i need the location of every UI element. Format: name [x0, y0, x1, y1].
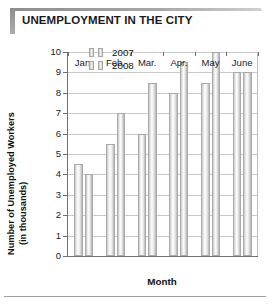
x-tick-mark	[226, 52, 227, 56]
x-axis-title: Month	[67, 276, 257, 287]
bar-2008-feb	[117, 113, 126, 256]
bar-2008-june	[243, 72, 252, 256]
gridline	[68, 215, 258, 216]
x-tick-mark	[195, 52, 196, 56]
gridline	[68, 236, 258, 237]
x-tick-label: June	[226, 57, 258, 68]
chart-legend: 2007 2008	[88, 46, 150, 72]
chart-figure: UNEMPLOYMENT IN THE CITY Number of Unemp…	[0, 0, 272, 304]
legend-item-2007: 2007	[88, 46, 150, 59]
y-tick-label: 5	[39, 149, 61, 159]
banner-top-bar	[10, 8, 262, 11]
x-tick-label: Apr.	[163, 57, 195, 68]
y-tick-mark	[63, 215, 67, 216]
y-tick-label: 2	[39, 210, 61, 220]
y-axis-title-line1: Number of Unemployed Workers	[6, 112, 17, 255]
bar-2007-jan	[74, 164, 83, 256]
y-tick-mark	[63, 113, 67, 114]
legend-swatch-2008	[88, 61, 108, 70]
page-bottom-rule	[4, 296, 266, 297]
y-tick-label: 8	[39, 88, 61, 98]
y-tick-mark	[63, 93, 67, 94]
y-axis-title: Number of Unemployed Workers (in thousan…	[0, 40, 32, 260]
plot-area: Jan.Feb.Mar.Apr.MayJune	[67, 52, 258, 257]
bar-2007-apr	[169, 93, 178, 256]
legend-swatch-bar-icon	[98, 48, 103, 57]
gridline	[68, 154, 258, 155]
y-tick-label: 7	[39, 108, 61, 118]
gridline	[68, 174, 258, 175]
x-tick-label: May	[195, 57, 227, 68]
page-title: UNEMPLOYMENT IN THE CITY	[22, 14, 192, 26]
y-axis-title-line2: (in thousands)	[18, 182, 29, 245]
y-tick-label: 9	[39, 67, 61, 77]
y-tick-mark	[63, 154, 67, 155]
gridline	[68, 113, 258, 114]
y-tick-label: 3	[39, 190, 61, 200]
gridline	[68, 93, 258, 94]
x-tick-mark	[68, 52, 69, 56]
bar-2007-feb	[106, 144, 115, 256]
y-tick-label: 10	[39, 47, 61, 57]
legend-swatch-bar-icon	[89, 61, 94, 70]
legend-swatch-bar-icon	[89, 48, 94, 57]
legend-swatch-bar-icon	[98, 61, 103, 70]
y-tick-mark	[63, 174, 67, 175]
bar-2008-apr	[180, 62, 189, 256]
y-tick-label: 4	[39, 169, 61, 179]
y-tick-label: 1	[39, 231, 61, 241]
y-tick-label: 0	[39, 251, 61, 261]
y-tick-mark	[63, 236, 67, 237]
legend-swatch-2007	[88, 48, 108, 57]
bar-2007-mar	[138, 134, 147, 256]
gridline	[68, 134, 258, 135]
y-tick-mark	[63, 134, 67, 135]
chart-title-banner: UNEMPLOYMENT IN THE CITY	[10, 8, 262, 34]
y-tick-mark	[63, 195, 67, 196]
banner-left-bar	[10, 8, 15, 34]
bar-2008-mar	[148, 83, 157, 256]
x-tick-mark	[163, 52, 164, 56]
y-tick-mark	[63, 72, 67, 73]
x-tick-mark	[258, 52, 259, 56]
y-tick-mark	[63, 256, 67, 257]
legend-label-2007: 2007	[112, 48, 134, 58]
gridline	[68, 72, 258, 73]
bar-2007-june	[233, 72, 242, 256]
gridline	[68, 195, 258, 196]
legend-item-2008: 2008	[88, 59, 150, 72]
y-tick-label: 6	[39, 129, 61, 139]
y-tick-mark	[63, 52, 67, 53]
legend-label-2008: 2008	[112, 61, 134, 71]
bar-2007-may	[201, 83, 210, 256]
bar-2008-jan	[85, 174, 94, 256]
bar-2008-may	[212, 52, 221, 256]
